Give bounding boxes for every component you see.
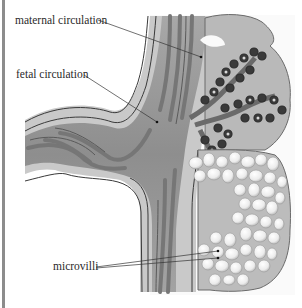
label-maternal-circulation: maternal circulation (15, 14, 107, 27)
label-microvilli: microvilli (53, 260, 98, 273)
label-fetal-circulation: fetal circulation (16, 68, 88, 81)
placenta-illustration (0, 0, 302, 308)
diagram-frame: maternal circulation fetal circulation m… (0, 0, 302, 308)
